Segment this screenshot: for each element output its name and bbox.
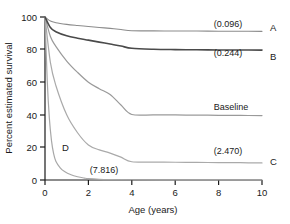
y-tick-label-60: 60 [26, 77, 37, 88]
annotation-b-value: (0.244) [214, 48, 243, 58]
annotation-baseline: Baseline [214, 102, 249, 112]
annotation-a-value: (0.096) [214, 19, 243, 29]
curve-label-b: B [270, 51, 276, 62]
annotation-c-value: (2.470) [214, 146, 243, 156]
y-axis-title: Percent estimated survival [3, 42, 14, 153]
x-tick-label-8: 8 [216, 187, 221, 198]
y-tick-label-20: 20 [26, 142, 37, 153]
x-tick-label-6: 6 [173, 187, 178, 198]
curve-label-c: C [270, 156, 277, 167]
x-tick-label-10: 10 [257, 187, 268, 198]
x-axis-title: Age (years) [128, 204, 177, 215]
survival-chart: 100 80 60 40 20 0 0 2 4 6 8 10 Age (year… [0, 0, 290, 224]
curve-label-d: D [62, 142, 69, 153]
x-tick-label-0: 0 [42, 187, 47, 198]
x-tick-label-4: 4 [129, 187, 134, 198]
annotation-d-value: (7.816) [90, 165, 119, 175]
y-tick-label-40: 40 [26, 110, 37, 121]
x-tick-label-2: 2 [86, 187, 91, 198]
y-tick-label-100: 100 [21, 12, 37, 23]
curve-label-a: A [270, 22, 277, 33]
chart-svg: 100 80 60 40 20 0 0 2 4 6 8 10 Age (year… [0, 0, 290, 224]
y-tick-label-80: 80 [26, 44, 37, 55]
y-tick-label-0: 0 [32, 175, 37, 186]
